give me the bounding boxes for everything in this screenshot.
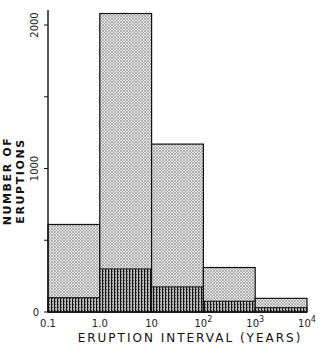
x-tick-label: 10 [145, 318, 158, 329]
bar-subset [203, 301, 255, 312]
x-tick-label: 1.0 [92, 318, 108, 329]
y-tick-label: 2000 [29, 12, 40, 37]
bar-total [100, 14, 152, 312]
x-tick-label: 103 [246, 315, 264, 329]
bar-subset [48, 298, 100, 312]
y-tick-label: 1000 [29, 156, 40, 181]
histogram-chart: 0100020000.11.010102103104 [0, 0, 320, 356]
y-axis-label: NUMBER OF ERUPTIONS [1, 111, 27, 251]
x-tick-label: 102 [194, 315, 212, 329]
bar-subset [152, 287, 204, 312]
x-tick-label: 104 [298, 315, 316, 329]
bar-subset [100, 269, 152, 312]
bars-group [48, 14, 307, 312]
x-tick-label: 0.1 [40, 318, 56, 329]
y-tick-label: 0 [33, 307, 39, 318]
x-axis-label: ERUPTION INTERVAL (YEARS) [60, 331, 320, 345]
